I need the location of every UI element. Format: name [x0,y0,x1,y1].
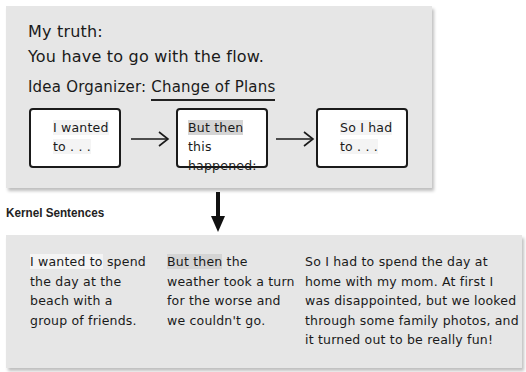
arrow-right-icon [130,131,170,147]
arrow-down-icon [211,192,225,232]
sentence-highlight: But then [167,254,222,269]
kernel-sentence-1: I wanted to spend the day at the beach w… [30,252,150,330]
kernel-sentences-heading: Kernel Sentences [6,205,104,220]
box-highlight: I wanted [53,120,109,135]
organizer-box-2: But then this happened: [176,108,268,168]
kernel-sentence-3: So I had to spend the day at home with m… [305,252,520,350]
organizer-name: Change of Plans [151,78,275,101]
truth-text: You have to go with the flow. [28,47,264,66]
sentence-highlight: I wanted to [30,254,103,269]
box-text: this [188,139,212,154]
organizer-title: Idea Organizer: Change of Plans [28,78,275,96]
box-text: So I had [340,120,392,135]
kernel-sentence-2: But then the weather took a turn for the… [167,252,297,330]
box-line2: to . . . [340,139,378,154]
organizer-box-1: I wanted to . . . [29,108,121,168]
box-line2: to . . . [53,139,91,154]
sentence-text: So I had to spend the day at home with m… [305,254,519,347]
box-highlight: But then [188,120,243,135]
arrow-right-icon [275,131,315,147]
box-line2: happened: [188,158,257,173]
truth-label: My truth: [28,22,103,41]
organizer-box-3: So I had to . . . [316,108,408,168]
organizer-label: Idea Organizer: [28,78,146,96]
